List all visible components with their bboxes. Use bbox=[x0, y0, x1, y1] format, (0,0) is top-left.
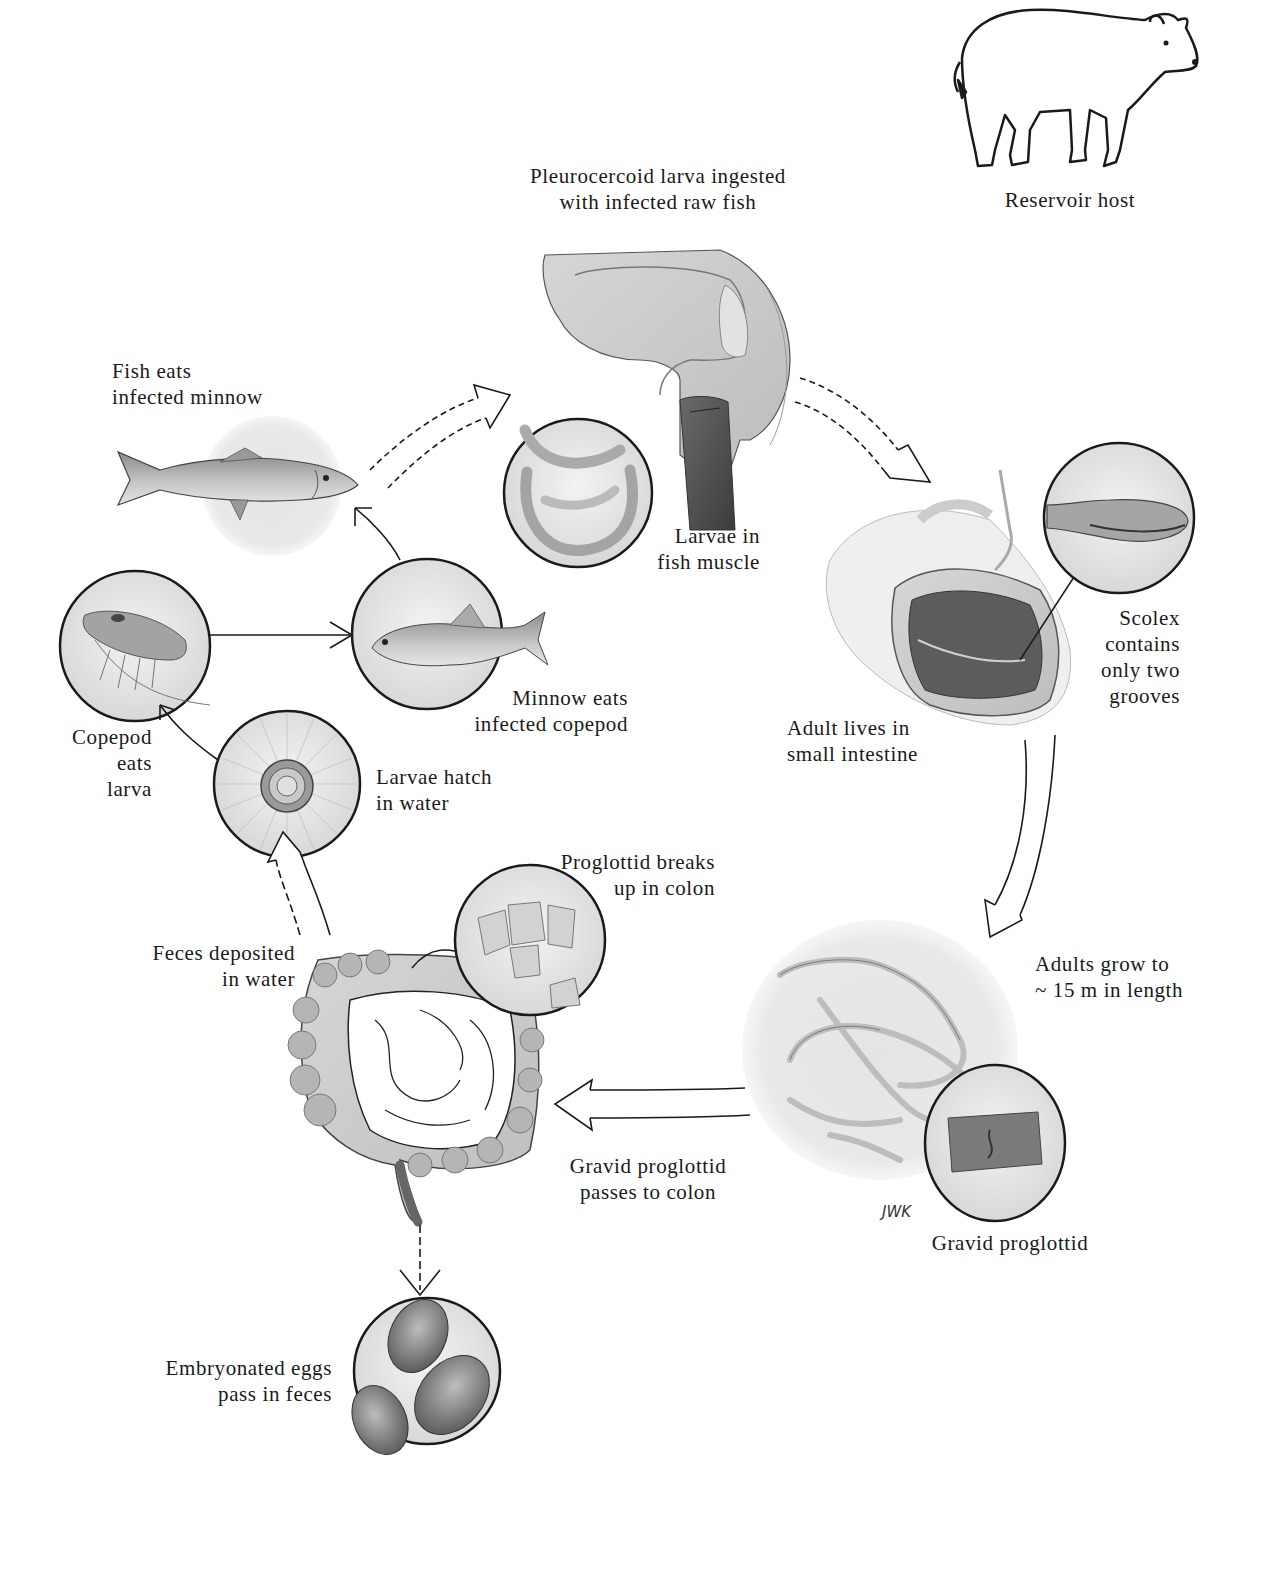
gravid-proglottid-inset bbox=[925, 1065, 1065, 1221]
label-reservoir-host: Reservoir host bbox=[990, 187, 1150, 213]
bear-illustration bbox=[955, 10, 1198, 166]
label-copepod-eats: Copepod eats larva bbox=[50, 724, 152, 802]
copepod-inset bbox=[60, 571, 210, 721]
label-adult-intestine: Adult lives in small intestine bbox=[787, 715, 918, 767]
label-adults-grow: Adults grow to ~ 15 m in length bbox=[1035, 951, 1183, 1003]
label-larvae-hatch: Larvae hatch in water bbox=[376, 764, 492, 816]
larva-hatch-inset bbox=[214, 711, 360, 857]
predator-fish bbox=[118, 416, 358, 556]
label-feces-deposited: Feces deposited in water bbox=[120, 940, 295, 992]
label-gravid-passes: Gravid proglottid passes to colon bbox=[548, 1153, 748, 1205]
artist-signature: JWK bbox=[882, 1203, 911, 1221]
label-eggs-pass: Embryonated eggs pass in feces bbox=[140, 1355, 332, 1407]
label-gravid-proglottid: Gravid proglottid bbox=[910, 1230, 1110, 1256]
label-fish-eats: Fish eats infected minnow bbox=[112, 358, 263, 410]
label-ingestion: Pleurocercoid larva ingested with infect… bbox=[508, 163, 808, 215]
label-proglottid-breaks: Proglottid breaks up in colon bbox=[520, 849, 715, 901]
life-cycle-diagram bbox=[0, 0, 1282, 1569]
larvae-muscle-inset bbox=[504, 419, 652, 567]
label-minnow-eats: Minnow eats infected copepod bbox=[440, 685, 628, 737]
eggs-inset bbox=[341, 1290, 505, 1464]
scolex-inset bbox=[1044, 443, 1194, 593]
label-larvae-muscle: Larvae in fish muscle bbox=[640, 523, 760, 575]
label-scolex: Scolex contains only two grooves bbox=[1060, 605, 1180, 709]
